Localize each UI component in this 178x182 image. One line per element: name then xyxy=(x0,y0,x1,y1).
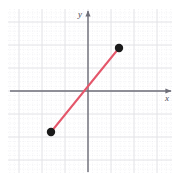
coordinate-plane-figure: y x xyxy=(0,0,178,182)
segment-endpoint-upper-right xyxy=(115,44,123,52)
y-axis-label: y xyxy=(77,9,82,19)
x-axis-label: x xyxy=(164,93,169,103)
segment-endpoint-lower-left xyxy=(47,128,55,136)
coordinate-plane-svg: y x xyxy=(0,0,178,182)
